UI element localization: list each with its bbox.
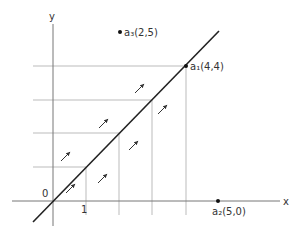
label-a2: a₂(5,0): [212, 206, 246, 217]
arrow-icon: [98, 174, 107, 183]
x-tick-label: 1: [81, 204, 87, 215]
point-a2: [216, 199, 220, 203]
origin-label: 0: [42, 188, 48, 199]
vertical-grid-lines: [86, 66, 186, 215]
y-axis-label: y: [49, 11, 55, 22]
diagonal-line: [33, 31, 219, 222]
arrow-icon: [135, 84, 144, 93]
horizontal-grid-lines: [33, 66, 186, 167]
point-a1: [184, 64, 188, 68]
x-axis-label: x: [283, 196, 289, 207]
arrow-icon: [61, 152, 70, 161]
arrow-icon: [158, 105, 167, 114]
arrow-icon: [66, 184, 75, 193]
arrow-icon: [99, 119, 108, 128]
label-a1: a₁(4,4): [190, 61, 224, 72]
arrow-icon: [129, 141, 138, 150]
label-a3: a₃(2,5): [124, 27, 158, 38]
diagram-canvas: y x 0 1 a₁(4,4) a₂(5,0) a₃(2,5): [0, 0, 298, 232]
point-a3: [118, 30, 122, 34]
